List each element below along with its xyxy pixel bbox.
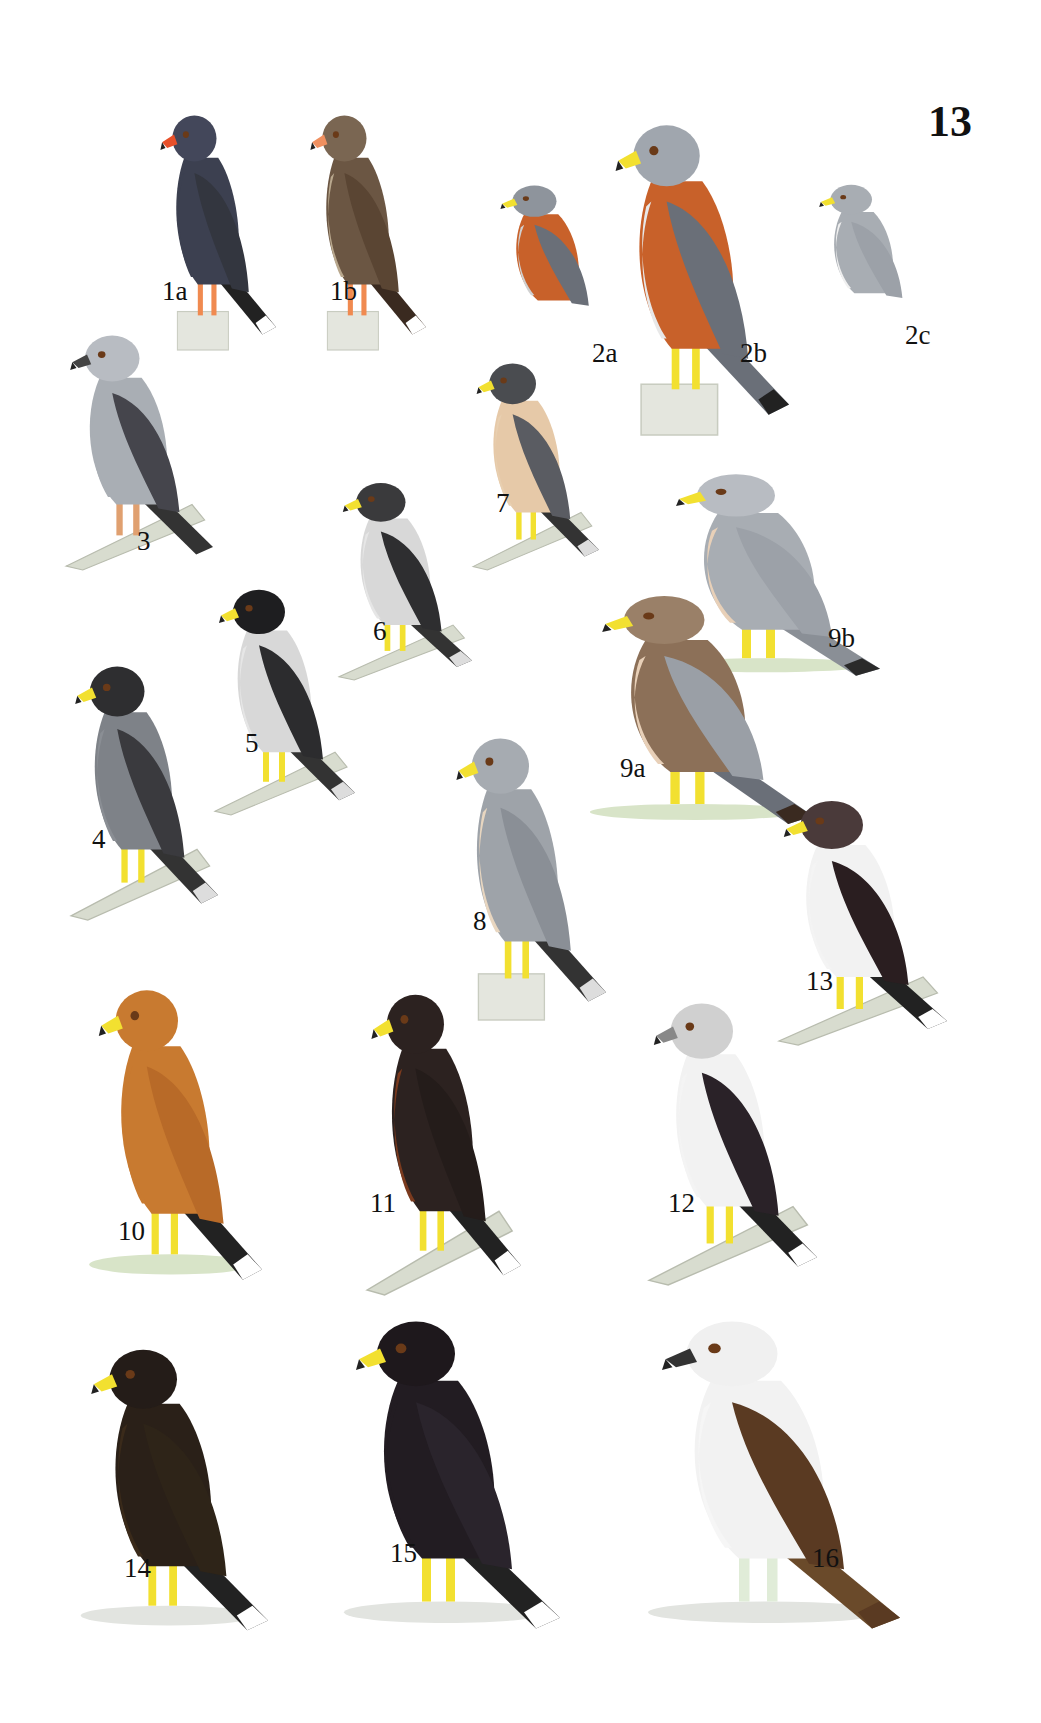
bird-figure-1a [140,100,310,350]
bird-label-14: 14 [124,1555,151,1582]
bird-figure-15 [320,1300,620,1650]
bird-label-4: 4 [92,826,106,853]
bird-figure-12 [625,985,865,1285]
bird-figure-10 [70,970,310,1300]
bird-label-1b: 1b [330,278,357,305]
bird-figure-4 [50,650,260,920]
bird-figure-16 [620,1300,970,1650]
bird-label-12: 12 [668,1190,695,1217]
bird-label-10: 10 [118,1218,145,1245]
bird-label-2c: 2c [905,322,930,349]
bird-figure-2c [800,175,960,335]
bird-label-11: 11 [370,1190,396,1217]
bird-figure-11 [345,975,565,1295]
bird-label-8: 8 [473,908,487,935]
bird-label-15: 15 [390,1540,417,1567]
bird-label-2b: 2b [740,340,767,367]
bird-label-3: 3 [137,528,151,555]
bird-figure-14 [60,1330,320,1650]
bird-label-1a: 1a [162,278,187,305]
bird-figure-1b [290,100,460,350]
plate-number: 13 [928,96,972,147]
bird-label-16: 16 [812,1545,839,1572]
